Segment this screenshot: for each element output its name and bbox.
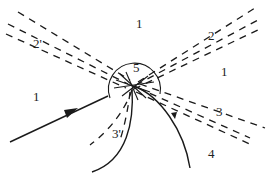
label-region-4: 4: [208, 146, 215, 161]
band-3-prime: [90, 90, 132, 145]
label-region-top: 1: [136, 16, 143, 31]
label-region-left: 1: [33, 89, 40, 104]
arrowhead-icon: [64, 108, 78, 118]
incident-ray: [10, 96, 108, 142]
curve-right-arrow-icon: [171, 112, 177, 119]
label-center-5: 5: [133, 60, 140, 75]
label-wave-3-prime: 3': [112, 126, 121, 141]
label-region-right: 1: [221, 64, 228, 79]
label-wave-3: 3: [216, 104, 223, 119]
band-2: [134, 8, 262, 89]
label-wave-2: 2: [208, 28, 215, 43]
diagram-canvas: 1 1 1 2' 2 3 3' 4 5: [0, 0, 272, 184]
label-wave-2-prime: 2': [33, 36, 42, 51]
band-3: [136, 84, 265, 146]
